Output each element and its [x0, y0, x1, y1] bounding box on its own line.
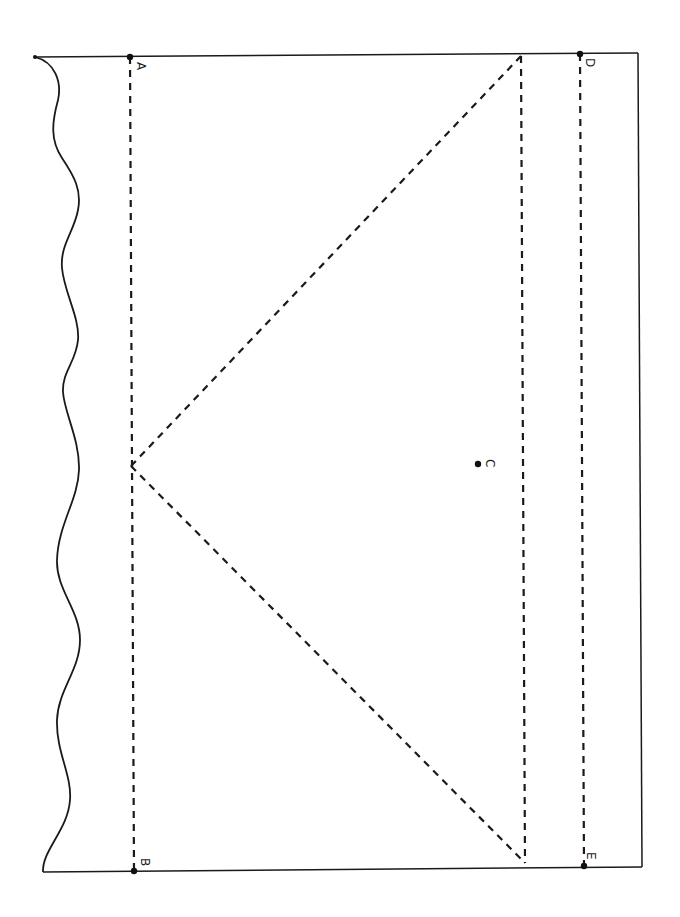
dashed-diagonal-upper: [131, 56, 521, 466]
label-b: B: [138, 858, 152, 866]
point-c: [475, 461, 481, 467]
label-d: D: [583, 58, 597, 67]
right-edge-line: [638, 53, 642, 867]
dashed-diagonal-lower: [131, 466, 525, 863]
dashed-triangle-base: [521, 56, 525, 863]
point-d: [577, 51, 583, 57]
point-b: [131, 868, 137, 874]
wavy-edge-line: [35, 57, 80, 872]
label-c: C: [483, 459, 497, 467]
label-e: E: [584, 852, 598, 860]
geometry-diagram: A B C D E: [0, 0, 680, 917]
dashed-line-de: [580, 54, 584, 866]
point-a: [127, 54, 133, 60]
top-edge-line: [35, 53, 638, 57]
point-e: [581, 863, 587, 869]
frame-corner-top-left: [33, 55, 37, 59]
label-a: A: [134, 62, 148, 71]
